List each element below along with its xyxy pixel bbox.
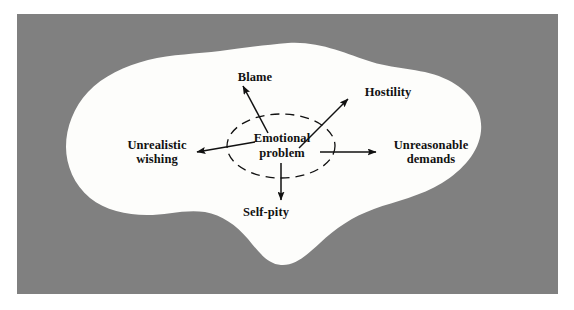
hostility-line1: Hostility bbox=[365, 85, 412, 99]
emotional-problem-line1: Emotional bbox=[254, 131, 310, 145]
node-label-self-pity: Self-pity bbox=[227, 205, 305, 219]
unreasonable-demands-line2: demands bbox=[407, 152, 456, 166]
unrealistic-wishing-line2: wishing bbox=[136, 152, 178, 166]
emotional-problem-label: Emotionalproblem bbox=[238, 131, 326, 160]
node-label-blame: Blame bbox=[220, 70, 290, 84]
unreasonable-demands-line1: Unreasonable bbox=[394, 138, 469, 152]
blame-line1: Blame bbox=[238, 70, 273, 84]
figure-root: Emotionalproblem Blame Hostility Unreali… bbox=[0, 0, 574, 310]
node-label-unrealistic-wishing: Unrealisticwishing bbox=[112, 138, 202, 166]
unrealistic-wishing-line1: Unrealistic bbox=[127, 138, 186, 152]
self-pity-line1: Self-pity bbox=[243, 205, 289, 219]
emotional-problem-line2: problem bbox=[259, 146, 305, 160]
node-label-unreasonable-demands: Unreasonabledemands bbox=[379, 138, 483, 166]
node-label-hostility: Hostility bbox=[349, 85, 427, 99]
